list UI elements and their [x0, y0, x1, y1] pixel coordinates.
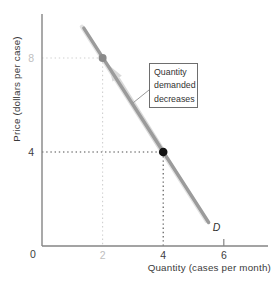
x-axis-title: Quantity (cases per month): [0, 262, 271, 273]
annotation-box: Quantity demanded decreases: [149, 63, 198, 108]
x-tick-label-4: 4: [160, 249, 166, 261]
plot-area: 024648D: [0, 0, 279, 286]
curve-label-d: D: [213, 221, 221, 233]
x-tick-label-6: 6: [221, 249, 227, 261]
y-tick-label-8: 8: [28, 52, 34, 64]
y-axis-title: Price (dollars per case): [9, 3, 25, 175]
y-tick-label-4: 4: [28, 146, 34, 158]
annotation-text: Quantity demanded decreases: [154, 66, 196, 106]
point-q2-p8: [99, 54, 107, 62]
annotation-leader-line: [131, 90, 149, 105]
demand-curve-figure: 024648D Price (dollars per case) Quantit…: [0, 0, 279, 286]
point-q4-p4: [159, 148, 168, 157]
x-tick-label-2: 2: [100, 249, 106, 261]
x-tick-label-0: 0: [30, 248, 36, 260]
